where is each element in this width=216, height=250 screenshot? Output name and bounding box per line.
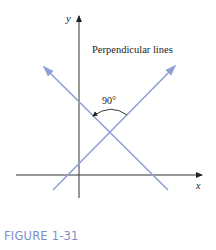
title-label: Perpendicular lines: [92, 44, 173, 55]
perpendicular-lines-diagram: 90° Perpendicular lines y x: [0, 0, 216, 250]
line-positive-slope: [53, 66, 175, 190]
angle-label: 90°: [102, 95, 116, 106]
x-axis-label: x: [195, 180, 201, 191]
figure-caption: FIGURE 1-31: [4, 229, 79, 243]
y-axis-label: y: [65, 12, 71, 24]
angle-arc: [93, 109, 127, 116]
line-negative-slope: [44, 67, 168, 190]
